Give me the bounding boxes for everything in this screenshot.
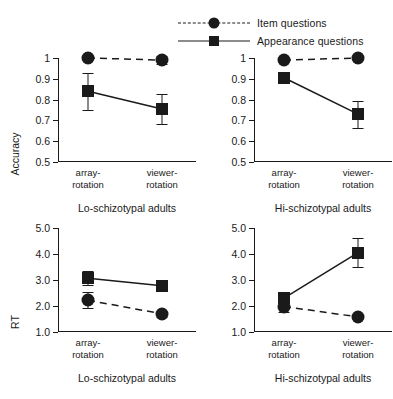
- error-bar-cap: [353, 238, 364, 239]
- y-axis-tick-label: 4.0: [231, 248, 246, 260]
- y-axis-label: RT: [8, 266, 22, 378]
- error-bar-cap: [83, 285, 94, 286]
- data-point-square: [82, 272, 94, 284]
- plot-area: 0.50.60.70.80.91array-rotationviewer-rot…: [58, 58, 176, 162]
- y-axis-tick-label: 0.6: [35, 135, 50, 147]
- y-axis-tick-label: 2.0: [231, 300, 246, 312]
- data-point-square: [156, 280, 168, 292]
- plot-area: 1.02.03.04.05.0array-rotationviewer-rota…: [254, 228, 372, 332]
- legend: Item questions Appearance questions: [178, 14, 364, 50]
- error-bar-cap: [157, 124, 168, 125]
- legend-key-circle-dashed: [178, 14, 250, 32]
- square-marker-icon: [209, 36, 219, 46]
- data-point-circle: [278, 54, 291, 67]
- series-line: [284, 253, 358, 299]
- error-bar-cap: [83, 110, 94, 111]
- legend-label-item-questions: Item questions: [257, 17, 327, 29]
- x-axis-tick-label: viewer-rotation: [342, 337, 374, 360]
- y-axis-tick-label: 0.5: [231, 156, 246, 168]
- y-axis-tick-label: 1: [44, 52, 50, 64]
- y-axis-tick-label: 0.7: [35, 114, 50, 126]
- x-axis-tick-label: viewer-rotation: [146, 167, 178, 190]
- y-axis-tick-label: 0.8: [231, 94, 246, 106]
- series-line: [88, 300, 162, 314]
- y-axis-tick-label: 2.0: [35, 300, 50, 312]
- error-bar-cap: [157, 94, 168, 95]
- panel-top-right: 0.50.60.70.80.91array-rotationviewer-rot…: [196, 46, 392, 224]
- series-line: [88, 91, 162, 109]
- legend-entry-item-questions: Item questions: [178, 14, 364, 32]
- y-axis-tick-label: 0.8: [35, 94, 50, 106]
- panel-bottom-left: RT 1.02.03.04.05.0array-rotationviewer-r…: [0, 216, 196, 394]
- x-axis-tick-label: viewer-rotation: [146, 337, 178, 360]
- data-point-circle: [156, 307, 169, 320]
- panel-bottom-right: 1.02.03.04.05.0array-rotationviewer-rota…: [196, 216, 392, 394]
- data-point-circle: [156, 54, 169, 67]
- series-line: [88, 278, 162, 286]
- data-point-square: [156, 103, 168, 115]
- plot-area: 0.50.60.70.80.91array-rotationviewer-rot…: [254, 58, 372, 162]
- y-axis-tick-label: 3.0: [35, 274, 50, 286]
- y-axis-label: Accuracy: [8, 98, 22, 210]
- y-axis-tick: [249, 332, 254, 333]
- y-axis-tick-label: 1: [240, 52, 246, 64]
- data-point-square: [278, 72, 290, 84]
- panel-caption: Hi-schizotypal adults: [254, 372, 392, 384]
- y-axis-tick-label: 0.7: [231, 114, 246, 126]
- y-axis-tick-label: 1.0: [231, 326, 246, 338]
- x-axis-tick-label: array-rotation: [268, 337, 300, 360]
- y-axis-tick-label: 0.6: [231, 135, 246, 147]
- y-axis-tick: [53, 162, 58, 163]
- panel-caption: Lo-schizotypal adults: [58, 372, 196, 384]
- y-axis-tick: [53, 332, 58, 333]
- y-axis-tick-label: 0.9: [231, 73, 246, 85]
- y-axis-tick: [249, 162, 254, 163]
- y-axis-tick-label: 5.0: [35, 222, 50, 234]
- series-line: [284, 58, 358, 60]
- y-axis-tick-label: 0.5: [35, 156, 50, 168]
- y-axis-tick-label: 1.0: [35, 326, 50, 338]
- data-point-square: [352, 108, 364, 120]
- error-bar-cap: [83, 308, 94, 309]
- panel-caption: Hi-schizotypal adults: [254, 202, 392, 214]
- data-point-square: [352, 247, 364, 259]
- data-point-circle: [352, 310, 365, 323]
- x-axis-tick-label: array-rotation: [72, 337, 104, 360]
- y-axis-tick-label: 3.0: [231, 274, 246, 286]
- data-point-square: [278, 292, 290, 304]
- panel-top-left: Accuracy 0.50.60.70.80.91array-rotationv…: [0, 46, 196, 224]
- error-bar-cap: [353, 128, 364, 129]
- series-line: [88, 58, 162, 60]
- data-point-square: [82, 85, 94, 97]
- figure: Item questions Appearance questions Accu…: [0, 0, 393, 399]
- x-axis-tick-label: array-rotation: [268, 167, 300, 190]
- circle-marker-icon: [209, 18, 220, 29]
- error-bar-cap: [83, 73, 94, 74]
- x-axis-tick-label: array-rotation: [72, 167, 104, 190]
- y-axis-tick-label: 5.0: [231, 222, 246, 234]
- panel-caption: Lo-schizotypal adults: [58, 202, 196, 214]
- y-axis-tick-label: 4.0: [35, 248, 50, 260]
- data-point-circle: [352, 52, 365, 65]
- error-bar-cap: [353, 101, 364, 102]
- y-axis-tick-label: 0.9: [35, 73, 50, 85]
- data-point-circle: [82, 52, 95, 65]
- plot-area: 1.02.03.04.05.0array-rotationviewer-rota…: [58, 228, 176, 332]
- data-point-circle: [82, 294, 95, 307]
- x-axis-tick-label: viewer-rotation: [342, 167, 374, 190]
- series-line: [284, 78, 358, 114]
- error-bar-cap: [353, 267, 364, 268]
- series-line: [284, 307, 358, 317]
